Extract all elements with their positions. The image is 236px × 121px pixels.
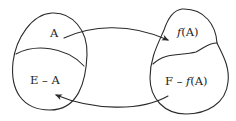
set-f-divider	[153, 43, 217, 64]
label-f-minus-f-of-a: F – f(A)	[165, 74, 208, 88]
label-f-of-a: f(A)	[176, 25, 199, 39]
label-a: A	[49, 26, 59, 40]
set-e-divider	[16, 48, 84, 66]
label-e-minus-a: E – A	[30, 73, 60, 87]
arrow-a-to-fa	[64, 28, 168, 40]
arrow-ffa-to-ea	[56, 95, 168, 107]
set-mapping-diagram: A E – A f(A) F – f(A)	[0, 0, 236, 121]
